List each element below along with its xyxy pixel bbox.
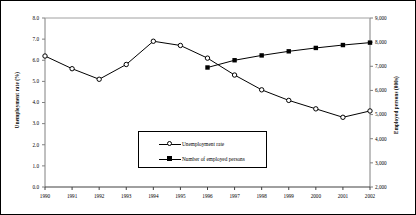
data-point-marker — [368, 109, 372, 113]
data-point-marker — [205, 65, 209, 69]
data-point-marker — [124, 62, 128, 66]
data-point-marker — [205, 56, 209, 60]
data-point-marker — [314, 107, 318, 111]
plot-area — [1, 1, 416, 215]
data-point-marker — [43, 54, 47, 58]
data-point-marker — [259, 53, 263, 57]
chart-figure: Unemployment rate (%) Employed persons (… — [0, 0, 416, 215]
data-point-marker — [341, 115, 345, 119]
open-circle-marker-icon — [159, 139, 181, 149]
legend-item-unemployment-rate: Unemployment rate — [139, 138, 266, 150]
data-point-marker — [287, 49, 291, 53]
data-point-marker — [151, 39, 155, 43]
data-point-marker — [70, 67, 74, 71]
data-point-marker — [232, 73, 236, 77]
data-point-marker — [314, 46, 318, 50]
data-point-marker — [97, 77, 101, 81]
filled-square-marker-icon — [159, 154, 181, 164]
chart-legend: Unemployment rate Number of employed per… — [138, 131, 267, 168]
series-line-0 — [45, 41, 370, 117]
data-point-marker — [341, 43, 345, 47]
data-point-marker — [259, 88, 263, 92]
legend-item-employed-persons: Number of employed persons — [139, 153, 266, 165]
legend-label-employed-persons: Number of employed persons — [182, 156, 245, 162]
data-point-marker — [287, 98, 291, 102]
legend-label-unemployment-rate: Unemployment rate — [182, 141, 224, 147]
data-point-marker — [368, 40, 372, 44]
data-point-marker — [232, 58, 236, 62]
series-line-1 — [208, 43, 371, 68]
data-point-marker — [178, 43, 182, 47]
